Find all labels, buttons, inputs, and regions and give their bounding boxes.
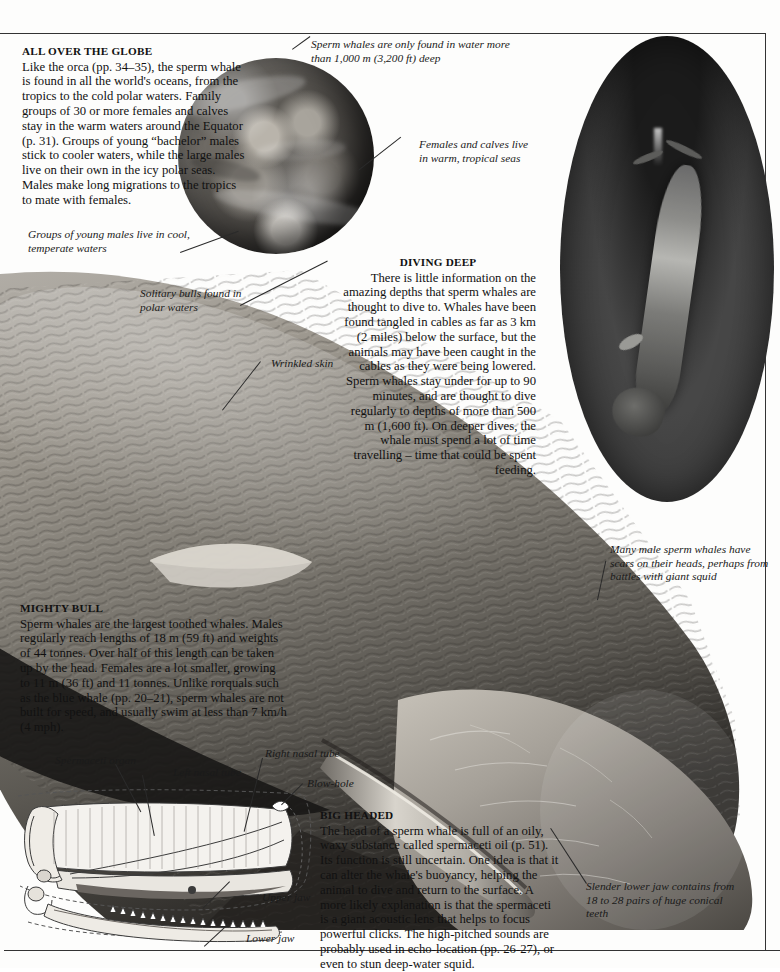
body-mighty-bull: Sperm whales are the largest toothed wha… xyxy=(20,617,288,735)
body-all-over-the-globe: Like the orca (pp. 34–35), the sperm wha… xyxy=(22,60,246,208)
section-mighty-bull: MIGHTY BULL Sperm whales are the largest… xyxy=(20,601,288,735)
caption-depth-water: Sperm whales are only found in water mor… xyxy=(311,38,527,65)
caption-right-nasal-tube: Right nasal tube xyxy=(265,747,370,761)
section-big-headed: BIG HEADED The head of a sperm whale is … xyxy=(320,808,560,972)
leader-line-depth-water xyxy=(292,36,310,50)
caption-females-calves: Females and calves live in warm, tropica… xyxy=(419,138,539,165)
body-big-headed: The head of a sperm whale is full of an … xyxy=(320,824,560,972)
caption-spermaceti-organ: Spermaceti organ xyxy=(55,754,175,768)
heading-all-over-the-globe: ALL OVER THE GLOBE xyxy=(22,44,246,59)
caption-young-males: Groups of young males live in cool, temp… xyxy=(28,228,208,255)
sperm-whale-head-cutaway-diagram xyxy=(14,782,326,950)
heading-mighty-bull: MIGHTY BULL xyxy=(20,601,288,616)
body-diving-deep: There is little information on the amazi… xyxy=(340,271,536,478)
caption-slender-jaw: Slender lower jaw contains from 18 to 28… xyxy=(586,880,746,921)
caption-lower-jaw: Lower jaw xyxy=(246,932,316,946)
section-all-over-the-globe: ALL OVER THE GLOBE Like the orca (pp. 34… xyxy=(22,44,246,208)
caption-blow-hole: Blow-hole xyxy=(307,777,377,791)
caption-solitary-bulls: Solitary bulls found in polar waters xyxy=(140,287,250,314)
page-rule-top xyxy=(0,33,766,34)
caption-wrinkled-skin: Wrinkled skin xyxy=(271,357,381,371)
heading-big-headed: BIG HEADED xyxy=(320,808,560,823)
caption-male-scars: Many male sperm whales have scars on the… xyxy=(610,543,770,584)
heading-diving-deep: DIVING DEEP xyxy=(340,255,536,270)
caption-left-nasal-tube: Left nasal tube xyxy=(173,766,273,780)
caption-upper-jaw: Upper jaw xyxy=(262,891,332,905)
